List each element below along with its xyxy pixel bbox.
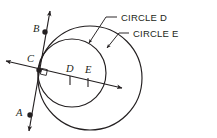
point-label-e: E xyxy=(84,64,92,75)
leader-line-circle-d xyxy=(89,17,117,43)
point-label-d: D xyxy=(65,63,74,74)
figure-canvas: A B C D E CIRCLE D CIRCLE E xyxy=(0,0,217,138)
point-dot-b xyxy=(42,29,47,34)
callout-label-circle-e: CIRCLE E xyxy=(133,28,178,39)
callout-label-circle-d: CIRCLE D xyxy=(121,12,167,23)
callout-labels: CIRCLE D CIRCLE E xyxy=(121,12,178,39)
point-labels: A B C D E xyxy=(15,23,92,118)
point-label-a: A xyxy=(15,107,23,118)
geometry-figure: A B C D E CIRCLE D CIRCLE E xyxy=(0,0,217,138)
point-dot-a xyxy=(27,112,32,117)
point-dot-c xyxy=(36,67,41,72)
point-label-b: B xyxy=(33,23,40,34)
point-label-c: C xyxy=(27,53,35,64)
